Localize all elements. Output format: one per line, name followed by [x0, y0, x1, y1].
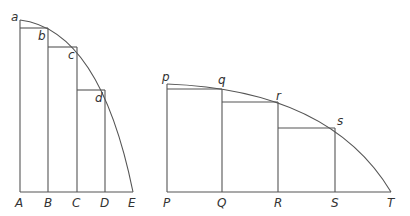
- label-D: D: [100, 196, 109, 210]
- label-A: A: [14, 196, 23, 210]
- label-b: b: [38, 29, 46, 43]
- left-figure: a b c d A B C D E: [11, 10, 136, 210]
- label-R: R: [274, 196, 282, 210]
- geometric-diagram: a b c d A B C D E p q r s P Q R S T: [0, 0, 410, 216]
- label-E: E: [128, 196, 136, 210]
- label-q: q: [218, 73, 226, 87]
- label-p: p: [161, 70, 170, 84]
- label-d: d: [95, 91, 103, 105]
- label-C: C: [72, 196, 81, 210]
- label-Q: Q: [217, 196, 226, 210]
- right-figure: p q r s P Q R S T: [161, 70, 396, 210]
- label-P: P: [163, 196, 171, 210]
- label-S: S: [331, 196, 339, 210]
- label-s: s: [337, 114, 343, 128]
- label-r: r: [276, 89, 282, 103]
- label-T: T: [387, 196, 396, 210]
- label-a: a: [11, 10, 18, 24]
- label-c: c: [68, 48, 75, 62]
- label-B: B: [44, 196, 52, 210]
